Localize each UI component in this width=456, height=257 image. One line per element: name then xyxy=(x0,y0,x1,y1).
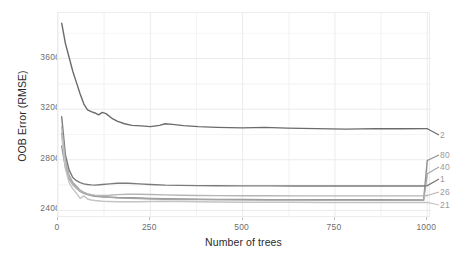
series-line xyxy=(62,23,428,129)
x-tick-label: 750 xyxy=(304,222,364,232)
plot-panel xyxy=(57,12,430,217)
y-tick-label: 32000 xyxy=(5,102,65,112)
y-tick-mark xyxy=(53,159,56,160)
series-end-label: 21 xyxy=(440,200,450,210)
series-end-label: 80 xyxy=(440,150,450,160)
series-line xyxy=(62,136,428,203)
series-leader-line xyxy=(427,192,439,195)
chart-figure: OOB Error (RMSE) Number of trees 2400028… xyxy=(0,0,456,257)
y-tick-label: 36000 xyxy=(5,52,65,62)
series-leader-line xyxy=(427,179,439,186)
series-end-label: 1 xyxy=(440,174,445,184)
series-leader-line xyxy=(427,155,439,160)
plot-lines xyxy=(58,13,431,218)
series-line xyxy=(62,117,428,186)
x-tick-label: 500 xyxy=(212,222,272,232)
series-leader-line xyxy=(427,202,439,205)
x-tick-label: 0 xyxy=(27,222,87,232)
x-tick-label: 250 xyxy=(119,222,179,232)
y-tick-mark xyxy=(53,209,56,210)
series-line xyxy=(62,146,428,200)
y-tick-label: 28000 xyxy=(5,153,65,163)
y-tick-label: 24000 xyxy=(5,203,65,213)
y-tick-mark xyxy=(53,108,56,109)
series-leader-line xyxy=(427,129,439,135)
x-axis-title: Number of trees xyxy=(57,236,430,248)
x-tick-label: 1000 xyxy=(396,222,456,232)
series-leader-line xyxy=(427,167,439,174)
series-end-label: 40 xyxy=(440,162,450,172)
series-end-label: 26 xyxy=(440,187,450,197)
y-tick-mark xyxy=(53,58,56,59)
series-end-label: 2 xyxy=(440,130,445,140)
series-line xyxy=(62,133,428,200)
